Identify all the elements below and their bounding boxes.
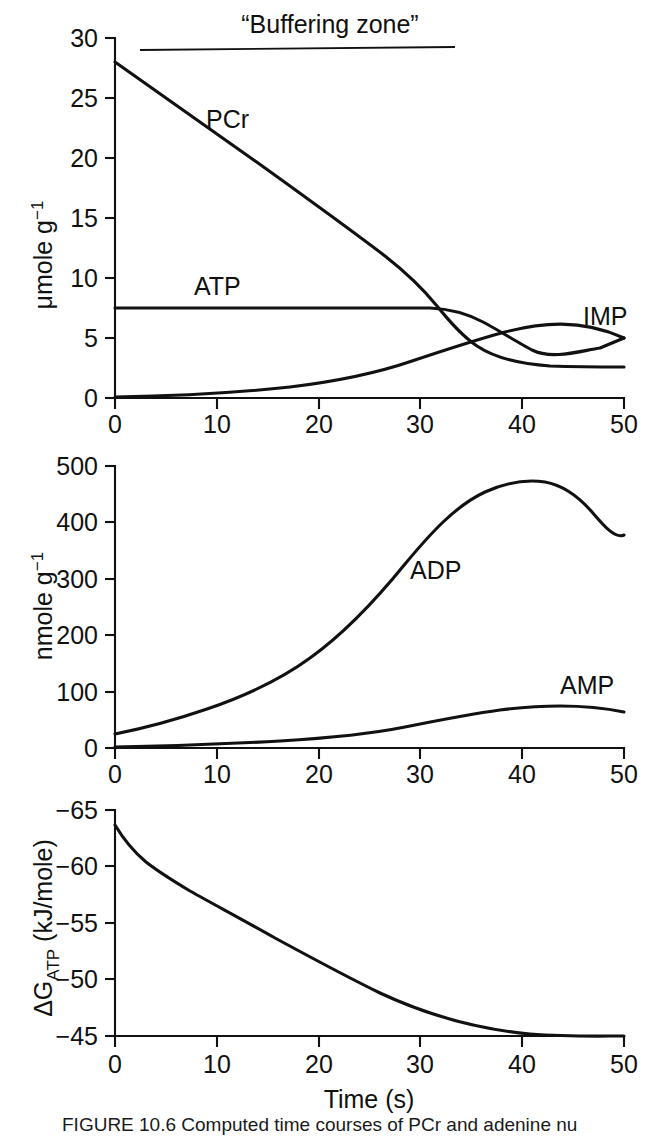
bottom-xlabel-0: 0 bbox=[108, 1050, 122, 1078]
bottom-xlabel-10: 10 bbox=[203, 1050, 231, 1078]
bottom-xlabel-50: 50 bbox=[610, 1050, 638, 1078]
bottom-xlabel-30: 30 bbox=[406, 1050, 434, 1078]
top-yaxis-title: μmole g−1 bbox=[28, 201, 57, 310]
series-label-amp: AMP bbox=[560, 671, 614, 699]
bottom-ylabel-minus55: −55 bbox=[56, 909, 98, 937]
figure-caption-strip: FIGURE 10.6 Computed time courses of PCr… bbox=[0, 1118, 669, 1136]
figure-container: 30 25 20 15 10 5 0 0 10 20 30 40 50 μmol… bbox=[0, 0, 669, 1136]
bottom-axes bbox=[115, 810, 624, 1036]
middle-yaxis-title-main: nmole g bbox=[29, 571, 57, 660]
top-ylabel-25: 25 bbox=[70, 84, 98, 112]
middle-ylabel-300: 300 bbox=[56, 565, 98, 593]
middle-yaxis-title-exponent: −1 bbox=[28, 552, 47, 571]
top-xlabel-10: 10 bbox=[203, 410, 231, 436]
middle-yaxis-title: nmole g−1 bbox=[28, 552, 57, 660]
middle-xlabel-40: 40 bbox=[508, 760, 536, 788]
top-xlabel-30: 30 bbox=[406, 410, 434, 436]
top-yaxis-title-main: μmole g bbox=[29, 220, 57, 309]
top-ylabel-5: 5 bbox=[84, 324, 98, 352]
top-xlabel-50: 50 bbox=[610, 410, 638, 436]
bottom-yaxis-title-subscript: ATP bbox=[44, 949, 63, 981]
curve-delta-g bbox=[115, 825, 624, 1036]
svg-text:μmole g−1: μmole g−1 bbox=[28, 201, 57, 310]
top-ylabel-20: 20 bbox=[70, 144, 98, 172]
figure-caption: FIGURE 10.6 Computed time courses of PCr… bbox=[62, 1118, 662, 1136]
top-xlabel-0: 0 bbox=[108, 410, 122, 436]
bottom-xlabel-20: 20 bbox=[305, 1050, 333, 1078]
curve-atp bbox=[115, 308, 624, 355]
bottom-yaxis-title-units: (kJ/mole) bbox=[29, 839, 57, 949]
middle-ylabel-200: 200 bbox=[56, 621, 98, 649]
series-label-adp: ADP bbox=[410, 556, 461, 584]
top-ylabel-10: 10 bbox=[70, 264, 98, 292]
top-xlabel-20: 20 bbox=[305, 410, 333, 436]
middle-xlabel-30: 30 bbox=[406, 760, 434, 788]
panel-top-metabolites: 30 25 20 15 10 5 0 0 10 20 30 40 50 μmol… bbox=[0, 0, 669, 436]
top-xlabel-40: 40 bbox=[508, 410, 536, 436]
top-axes bbox=[115, 38, 624, 398]
middle-xlabel-10: 10 bbox=[203, 760, 231, 788]
middle-xlabel-20: 20 bbox=[305, 760, 333, 788]
curve-imp bbox=[115, 324, 624, 397]
middle-ylabel-500: 500 bbox=[56, 452, 98, 480]
bottom-xaxis-title: Time (s) bbox=[324, 1085, 415, 1113]
curve-adp bbox=[115, 481, 624, 734]
top-ylabel-30: 30 bbox=[70, 24, 98, 52]
top-ylabel-15: 15 bbox=[70, 204, 98, 232]
bottom-ylabel-minus65: −65 bbox=[56, 796, 98, 824]
curve-pcr bbox=[115, 62, 624, 367]
middle-ylabel-400: 400 bbox=[56, 508, 98, 536]
bottom-xlabel-40: 40 bbox=[508, 1050, 536, 1078]
buffering-zone-label: “Buffering zone” bbox=[241, 10, 418, 38]
middle-xlabel-0: 0 bbox=[108, 760, 122, 788]
curve-amp bbox=[115, 706, 624, 747]
middle-ylabel-0: 0 bbox=[84, 734, 98, 762]
bottom-yaxis-title-delta: ΔG bbox=[29, 981, 57, 1017]
bottom-ylabel-minus45: −45 bbox=[56, 1022, 98, 1050]
series-label-atp: ATP bbox=[194, 272, 241, 300]
panel-middle-nucleotides: 500 400 300 200 100 0 0 10 20 30 40 50 n… bbox=[0, 436, 669, 788]
buffering-zone-rule bbox=[140, 47, 455, 50]
series-label-pcr: PCr bbox=[206, 105, 249, 133]
svg-text:nmole g−1: nmole g−1 bbox=[28, 552, 57, 660]
series-label-imp: IMP bbox=[583, 302, 627, 330]
top-yaxis-title-exponent: −1 bbox=[28, 201, 47, 220]
panel-bottom-free-energy: −65 −60 −55 −50 −45 0 10 20 30 40 50 ΔGA… bbox=[0, 788, 669, 1136]
top-ylabel-0: 0 bbox=[84, 384, 98, 412]
middle-ylabel-100: 100 bbox=[56, 678, 98, 706]
middle-xlabel-50: 50 bbox=[610, 760, 638, 788]
bottom-ylabel-minus60: −60 bbox=[56, 852, 98, 880]
